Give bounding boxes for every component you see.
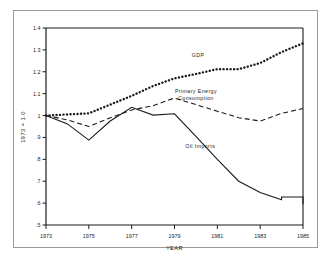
y-tick-label: 1.1 <box>33 91 41 97</box>
x-tick-label: 1977 <box>126 233 138 239</box>
data-series-group <box>46 43 303 204</box>
x-tick-label: 1979 <box>169 233 181 239</box>
y-axis-ticks: 1.41.31.21.11.9.8.7.6.5 <box>33 25 46 228</box>
series-line <box>46 43 303 115</box>
y-tick-label: .6 <box>36 200 41 206</box>
x-tick-label: 1975 <box>83 233 95 239</box>
x-tick-label: 1985 <box>297 233 309 239</box>
y-tick-label: .8 <box>36 156 41 162</box>
series-line <box>46 98 303 126</box>
x-axis-ticks: 1973197519771979198119831985 <box>40 225 309 239</box>
series-label-primary-energy-consumption: Primary Energy <box>175 88 217 94</box>
line-chart: 1.41.31.21.11.9.8.7.6.5 1973197519771979… <box>0 0 332 261</box>
x-axis-title: YEAR <box>166 245 183 251</box>
x-tick-label: 1973 <box>40 233 52 239</box>
y-tick-label: .5 <box>36 222 41 228</box>
y-axis-title: 1973 = 1.0 <box>20 111 26 143</box>
series-label-gdp: GDP <box>192 52 205 58</box>
y-tick-label: 1.2 <box>33 69 41 75</box>
series-line <box>46 107 303 204</box>
y-tick-label: .7 <box>36 178 41 184</box>
series-label-oil-imports: Oil Imports <box>185 143 215 149</box>
figure-container: 1.41.31.21.11.9.8.7.6.5 1973197519771979… <box>0 0 332 261</box>
y-tick-label: 1.4 <box>33 25 41 31</box>
chart-axes <box>46 28 303 225</box>
series-annotations: GDPPrimary EnergyConsumptionOil Imports <box>175 52 217 149</box>
y-tick-label: .9 <box>36 134 41 140</box>
y-tick-label: 1 <box>38 113 41 119</box>
series-label-primary-energy-consumption: Consumption <box>178 95 214 101</box>
x-tick-label: 1981 <box>211 233 223 239</box>
y-tick-label: 1.3 <box>33 47 41 53</box>
x-tick-label: 1983 <box>254 233 266 239</box>
